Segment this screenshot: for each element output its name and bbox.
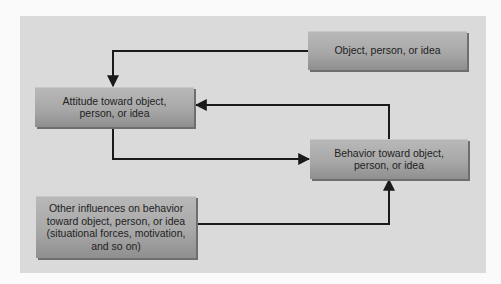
node-other-influences: Other influences on behavior toward obje… xyxy=(36,196,196,258)
node-object: Object, person, or idea xyxy=(308,31,467,70)
arrow-behavior-to-attitude xyxy=(196,105,389,139)
node-behavior-label: Behavior toward object, person, or idea xyxy=(328,147,450,172)
arrow-other-to-behavior xyxy=(196,180,389,224)
arrow-object-to-attitude xyxy=(113,51,308,86)
node-other-label: Other influences on behavior toward obje… xyxy=(41,202,191,252)
node-attitude-label: Attitude toward object, person, or idea xyxy=(55,95,175,120)
node-attitude: Attitude toward object, person, or idea xyxy=(35,87,194,127)
node-object-label: Object, person, or idea xyxy=(334,44,440,57)
node-behavior: Behavior toward object, person, or idea xyxy=(310,139,468,179)
arrow-attitude-to-behavior xyxy=(113,127,309,159)
